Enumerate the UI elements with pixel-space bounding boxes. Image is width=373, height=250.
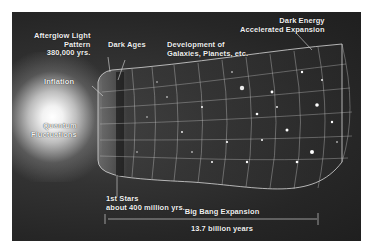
dark-energy-line-2: Accelerated Expansion	[240, 26, 325, 35]
development-label: Development of Galaxies, Planets, etc.	[167, 41, 248, 58]
afterglow-label: Afterglow Light Pattern 380,000 yrs.	[34, 32, 91, 58]
dark-ages-label: Dark Ages	[108, 41, 146, 50]
expansion-label: Big Bang Expansion	[162, 208, 282, 217]
quantum-fluctuations-label: Quantum Fluctuations	[31, 122, 77, 139]
diagram-panel: Afterglow Light Pattern 380,000 yrs. Dar…	[12, 12, 361, 241]
quantum-line-2: Fluctuations	[31, 131, 77, 140]
development-line-2: Galaxies, Planets, etc.	[167, 50, 248, 59]
afterglow-line-3: 380,000 yrs.	[34, 49, 91, 58]
inflation-label: Inflation	[44, 78, 74, 87]
duration-label: 13.7 billion years	[162, 225, 282, 234]
dark-energy-label: Dark Energy Accelerated Expansion	[240, 17, 325, 34]
